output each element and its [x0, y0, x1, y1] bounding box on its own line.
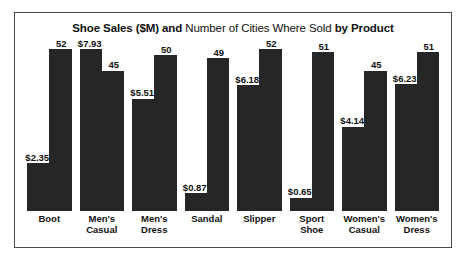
bar-group: $4.1445 [342, 46, 387, 211]
cities-bar-value-label: 45 [108, 60, 119, 70]
bar-group: $6.2351 [395, 46, 440, 211]
x-axis-label-line: Slipper [237, 213, 282, 224]
sales-bar[interactable]: $6.23 [395, 84, 417, 211]
chart-title-part-0: Shoe Sales ($M) [72, 22, 162, 34]
sales-bar-value-label: $7.93 [78, 39, 102, 49]
bar-group: $0.8749 [185, 46, 230, 211]
x-axis-label: Slipper [237, 213, 282, 235]
cities-bar-value-label: 49 [213, 48, 224, 58]
sales-bar[interactable]: $2.35 [27, 163, 49, 211]
x-axis-label-line: Dress [395, 224, 440, 235]
x-axis-label-line: Dress [132, 224, 177, 235]
cities-bar-value-label: 51 [318, 42, 329, 52]
cities-bar[interactable]: 50 [154, 55, 176, 211]
x-axis-label-line: Men's [132, 213, 177, 224]
plot-area: $2.3552$7.9345$5.5150$0.8749$6.1852$0.65… [23, 46, 443, 211]
x-axis-labels: BootMen'sCasualMen'sDressSandalSlipperSp… [23, 213, 443, 235]
sales-bar-value-label: $5.51 [130, 88, 154, 98]
cities-bar[interactable]: 52 [49, 49, 71, 211]
cities-bar[interactable]: 45 [102, 71, 124, 211]
cities-bar[interactable]: 45 [364, 71, 386, 211]
cities-bar-value-label: 51 [423, 42, 434, 52]
x-axis-label: Women'sCasual [342, 213, 387, 235]
sales-bar-value-label: $4.14 [340, 116, 364, 126]
bar-group: $0.6551 [290, 46, 335, 211]
cities-bar[interactable]: 51 [417, 52, 439, 211]
cities-bar-value-label: 52 [56, 39, 67, 49]
cities-bar[interactable]: 52 [259, 49, 281, 211]
bar-group: $2.3552 [27, 46, 72, 211]
sales-bar-value-label: $6.18 [235, 75, 259, 85]
chart-title: Shoe Sales ($M) and Number of Cities Whe… [15, 22, 451, 34]
x-axis-label: Men'sDress [132, 213, 177, 235]
cities-bar-value-label: 52 [266, 39, 277, 49]
chart-title-part-2: Number of Cities Where Sold [185, 22, 334, 34]
bar-group: $7.9345 [80, 46, 125, 211]
x-axis-label-line: Sandal [185, 213, 230, 224]
sales-bar[interactable]: $0.87 [185, 193, 207, 211]
bar-group: $5.5150 [132, 46, 177, 211]
chart-frame: Shoe Sales ($M) and Number of Cities Whe… [14, 12, 452, 248]
chart-title-part-3: by Product [335, 22, 394, 34]
sales-bar-value-label: $0.65 [288, 187, 312, 197]
x-axis-label-line: Sport [290, 213, 335, 224]
x-axis-label-line: Shoe [290, 224, 335, 235]
cities-bar[interactable]: 51 [312, 52, 334, 211]
sales-bar[interactable]: $7.93 [80, 49, 102, 211]
bar-group: $6.1852 [237, 46, 282, 211]
cities-bar[interactable]: 49 [207, 58, 229, 211]
x-axis-label-line: Women's [342, 213, 387, 224]
cities-bar-value-label: 50 [161, 45, 172, 55]
x-axis-label: Boot [27, 213, 72, 235]
sales-bar[interactable]: $0.65 [290, 198, 312, 211]
x-axis-label-line: Casual [80, 224, 125, 235]
x-axis-label-line: Boot [27, 213, 72, 224]
sales-bar[interactable]: $4.14 [342, 127, 364, 211]
sales-bar-value-label: $2.35 [25, 153, 49, 163]
cities-bar-value-label: 45 [371, 60, 382, 70]
x-axis-label: Men'sCasual [80, 213, 125, 235]
x-axis-label: SportShoe [290, 213, 335, 235]
x-axis-label: Women'sDress [395, 213, 440, 235]
x-axis-label: Sandal [185, 213, 230, 235]
x-axis-label-line: Men's [80, 213, 125, 224]
sales-bar[interactable]: $6.18 [237, 85, 259, 211]
sales-bar-value-label: $6.23 [393, 74, 417, 84]
x-axis-label-line: Casual [342, 224, 387, 235]
sales-bar[interactable]: $5.51 [132, 99, 154, 211]
sales-bar-value-label: $0.87 [183, 183, 207, 193]
x-axis-label-line: Women's [395, 213, 440, 224]
chart-title-part-1: and [162, 22, 185, 34]
